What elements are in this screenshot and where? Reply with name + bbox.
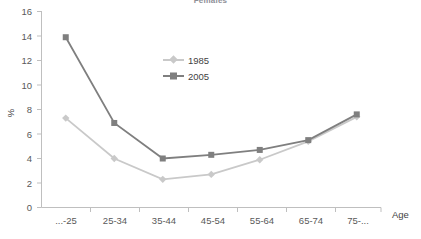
y-tick-label-14: 14	[21, 31, 32, 42]
data-point-2005-65-74	[305, 137, 311, 143]
series-1985	[62, 113, 360, 183]
y-axis-title: %	[5, 108, 16, 117]
legend-marker-1985	[169, 55, 177, 63]
legend-label-1985: 1985	[188, 55, 209, 66]
data-point-1985-55-64	[256, 156, 263, 163]
y-tick-label-16: 16	[21, 6, 32, 17]
series-2005	[63, 34, 360, 161]
x-tick-label-0: ...-25	[55, 215, 77, 226]
x-axis-ticks	[91, 208, 382, 213]
chart-legend: 1985 2005	[163, 55, 209, 82]
y-tick-label-4: 4	[27, 153, 32, 164]
x-tick-label-6: 75-...	[347, 215, 369, 226]
y-axis-ticks	[37, 12, 42, 208]
y-tick-label-2: 2	[27, 178, 32, 189]
x-axis-title: Age	[392, 209, 409, 220]
y-tick-label-6: 6	[27, 129, 32, 140]
data-point-2005-75-...	[354, 111, 360, 117]
chart-plot: 16 14 12 10 8 6 4 2 0 % ...-25 25-34 35-…	[0, 0, 421, 239]
series-line-1985	[66, 117, 357, 179]
x-tick-label-3: 45-54	[201, 215, 225, 226]
y-tick-label-12: 12	[21, 55, 32, 66]
y-tick-label-0: 0	[27, 202, 32, 213]
data-point-1985-45-54	[208, 171, 215, 178]
data-point-1985-35-44	[159, 176, 166, 183]
data-point-2005-35-44	[160, 156, 166, 162]
data-point-2005-45-54	[208, 152, 214, 158]
x-tick-label-2: 35-44	[152, 215, 176, 226]
y-tick-label-10: 10	[21, 80, 32, 91]
series-line-2005	[66, 37, 357, 158]
x-tick-label-4: 55-64	[250, 215, 274, 226]
x-tick-label-1: 25-34	[103, 215, 127, 226]
y-tick-label-8: 8	[27, 104, 32, 115]
data-point-2005-25-34	[111, 120, 117, 126]
legend-marker-2005	[170, 73, 177, 80]
series-layer	[62, 34, 360, 183]
chart-container: Females 16 14 12 10 8 6 4 2 0 %	[0, 0, 421, 239]
x-tick-label-5: 65-74	[299, 215, 323, 226]
data-point-2005-...-25	[63, 34, 69, 40]
legend-label-2005: 2005	[188, 71, 209, 82]
data-point-2005-55-64	[257, 147, 263, 153]
